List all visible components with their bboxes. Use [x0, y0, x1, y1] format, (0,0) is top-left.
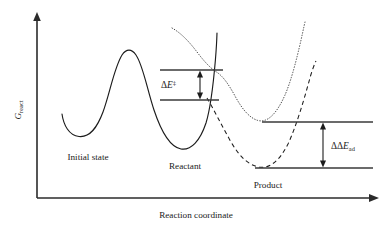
energy-diagram-figure: Greact Reaction coordinate ΔE‡	[0, 0, 387, 227]
product-dotted-curve	[172, 22, 305, 121]
product-dashed-curve	[207, 61, 316, 167]
product-label: Product	[254, 180, 283, 190]
adsorption-measure-arrow-head-up	[320, 123, 326, 130]
x-axis-label: Reaction coordinate	[159, 210, 233, 220]
adsorption-label-subscript: ad	[349, 145, 356, 152]
activation-energy-label: ΔE‡	[161, 79, 177, 90]
y-axis-arrowhead	[33, 12, 41, 21]
adsorption-energy-label: ΔΔEad	[331, 141, 356, 152]
axis-group	[33, 12, 379, 202]
initial-state-reactant-curve	[62, 33, 217, 149]
adsorption-measure-arrow-head-down	[320, 161, 326, 168]
reactant-label: Reactant	[169, 161, 202, 171]
state-labels-group: Initial state Reactant Product	[67, 152, 282, 190]
dotted-product-curve-group	[172, 22, 305, 121]
initial-state-label: Initial state	[67, 152, 108, 162]
reaction-coordinate-diagram: Greact Reaction coordinate ΔE‡	[0, 0, 387, 227]
adsorption-label-delta: ΔΔ	[331, 141, 343, 151]
solid-energy-curve-group	[62, 33, 217, 149]
x-axis-arrowhead	[369, 194, 379, 202]
activation-label-superscript: ‡	[173, 79, 177, 86]
activation-measure-arrow-head-down	[197, 93, 203, 100]
activation-measure-arrow-head-up	[197, 71, 203, 78]
y-axis-label: Greact	[13, 100, 24, 119]
adsorption-energy-group: ΔΔEad	[255, 122, 373, 168]
y-axis-label-subscript: react	[17, 100, 24, 113]
dashed-product-curve-group	[207, 61, 316, 167]
